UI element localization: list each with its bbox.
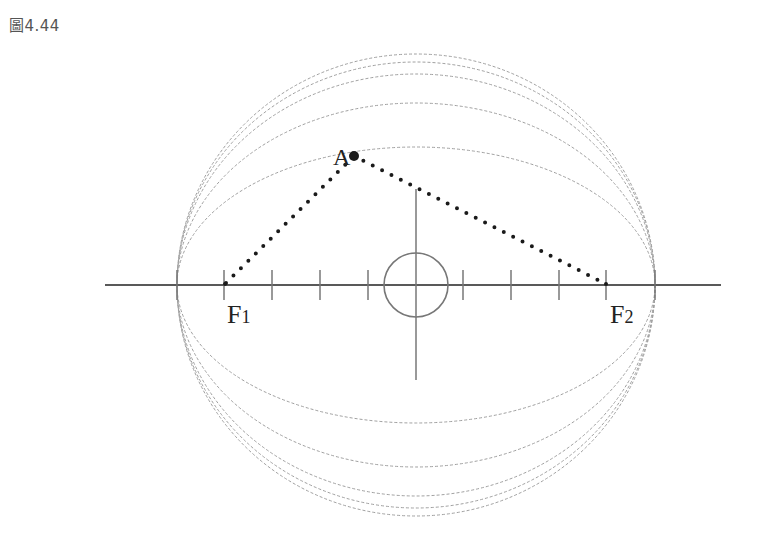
- label-f2: F2: [610, 300, 633, 329]
- label-f1-main: F: [227, 300, 241, 329]
- label-f2-main: F: [610, 300, 624, 329]
- label-f1: F1: [227, 300, 250, 329]
- focus-2-dot: [604, 282, 608, 286]
- point-a-dot: [349, 151, 359, 161]
- ellipse-diagram: A F1 F2: [0, 0, 758, 545]
- label-f1-sub: 1: [241, 307, 250, 327]
- label-f2-sub: 2: [624, 307, 633, 327]
- line-f1-to-a: [226, 156, 354, 283]
- label-a: A: [333, 144, 351, 170]
- focus-1-dot: [223, 282, 227, 286]
